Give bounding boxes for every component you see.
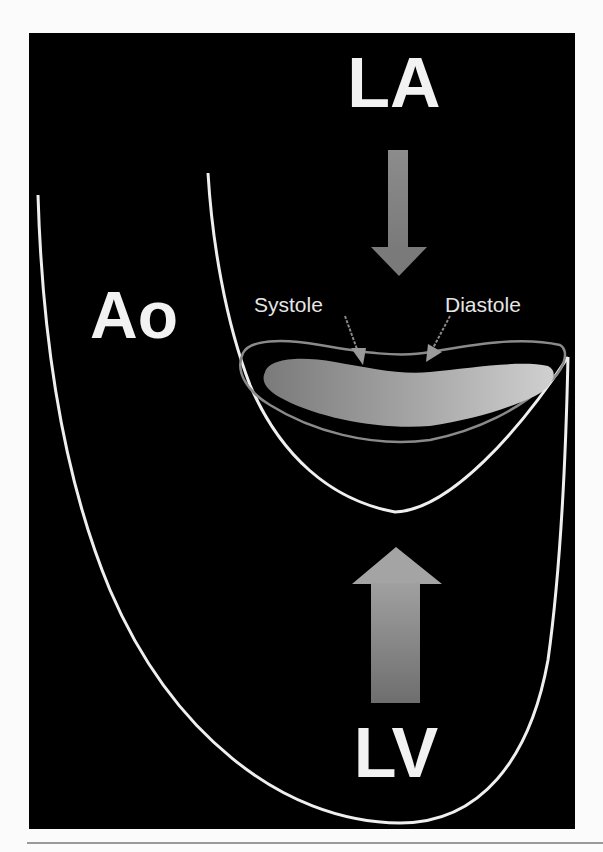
diastole-pointer	[426, 316, 450, 362]
systole-label: Systole	[254, 293, 323, 316]
lv-label: LV	[354, 714, 439, 792]
la-label: LA	[347, 44, 440, 122]
outflow-arrow	[352, 547, 442, 703]
diastole-label: Diastole	[445, 293, 521, 316]
footer-divider	[27, 842, 603, 844]
systole-pointer	[345, 316, 366, 365]
inflow-arrow	[371, 150, 427, 276]
systole-leaflet	[264, 359, 554, 427]
ao-label: Ao	[90, 278, 178, 352]
heart-valve-diagram: LA Ao LV Systole Diastole	[0, 0, 603, 852]
